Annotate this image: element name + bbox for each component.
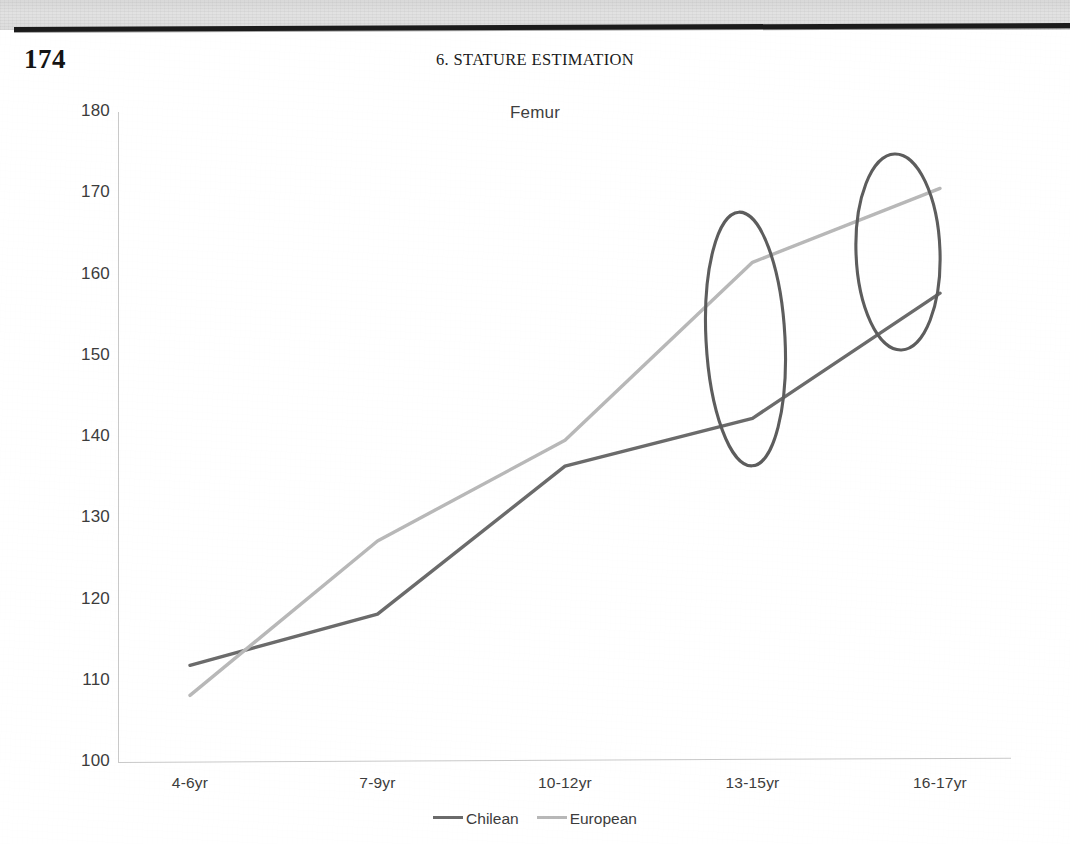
chart-legend: ChileanEuropean [0,809,1070,828]
legend-label-european: European [570,810,637,827]
legend-entry-european[interactable]: European [537,809,637,828]
femur-line-chart: Femur 180170160150140130120110100 4-6yr7… [0,86,1070,844]
legend-entry-chilean[interactable]: Chilean [433,809,519,828]
chapter-running-title: 6. STATURE ESTIMATION [0,50,1070,70]
series-line-chilean [190,293,940,665]
series-line-european [190,188,940,695]
legend-swatch-chilean [433,816,463,819]
legend-swatch-european [537,816,567,819]
running-head: 174 6. STATURE ESTIMATION [0,44,1070,76]
series-plot [0,86,1070,844]
legend-label-chilean: Chilean [466,810,519,827]
